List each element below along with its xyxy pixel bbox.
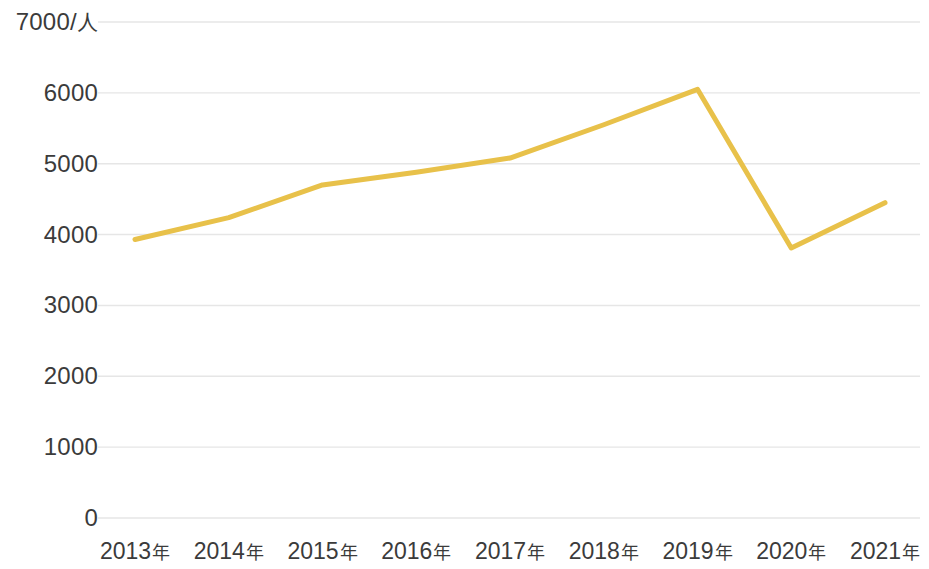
- y-axis-tick-label: 1000: [0, 435, 98, 459]
- y-axis-tick-value: 3000: [44, 291, 98, 318]
- x-axis-tick-suffix: 年: [902, 543, 920, 563]
- x-axis-tick-year: 2021: [850, 538, 901, 564]
- x-axis-tick-label: 2020年: [756, 540, 826, 563]
- x-axis-tick-suffix: 年: [433, 543, 451, 563]
- y-axis-tick-value: 0: [84, 504, 98, 531]
- x-axis-tick-label: 2019年: [662, 540, 732, 563]
- x-axis-tick-label: 2016年: [381, 540, 451, 563]
- y-axis-tick-value: 4000: [44, 221, 98, 248]
- x-axis-tick-suffix: 年: [340, 543, 358, 563]
- y-axis-tick-value: 7000/: [16, 8, 77, 35]
- x-axis-tick-year: 2015: [287, 538, 338, 564]
- x-axis-tick-year: 2019: [662, 538, 713, 564]
- x-axis-tick-suffix: 年: [808, 543, 826, 563]
- y-axis-tick-label: 2000: [0, 364, 98, 388]
- x-axis-tick-suffix: 年: [152, 543, 170, 563]
- y-axis-tick-value: 1000: [44, 433, 98, 460]
- x-axis-tick-label: 2017年: [475, 540, 545, 563]
- x-axis-tick-label: 2021年: [850, 540, 920, 563]
- x-axis-tick-suffix: 年: [621, 543, 639, 563]
- x-axis-tick-suffix: 年: [527, 543, 545, 563]
- x-axis-tick-label: 2015年: [287, 540, 357, 563]
- plot-area: [0, 0, 929, 569]
- y-axis-tick-label: 5000: [0, 152, 98, 176]
- x-axis-tick-year: 2013: [100, 538, 151, 564]
- y-axis-tick-value: 6000: [44, 79, 98, 106]
- y-axis-tick-label: 7000/人: [0, 10, 98, 34]
- x-axis-tick-suffix: 年: [715, 543, 733, 563]
- x-axis-tick-year: 2014: [194, 538, 245, 564]
- series-line: [135, 89, 885, 248]
- y-axis-tick-value: 5000: [44, 150, 98, 177]
- y-axis-tick-label: 0: [0, 506, 98, 530]
- x-axis-tick-label: 2014年: [194, 540, 264, 563]
- x-axis-tick-suffix: 年: [246, 543, 264, 563]
- x-axis-tick-year: 2020: [756, 538, 807, 564]
- series-group: [135, 89, 885, 248]
- x-axis-tick-year: 2018: [569, 538, 620, 564]
- x-axis-tick-year: 2016: [381, 538, 432, 564]
- x-axis-tick-label: 2013年: [100, 540, 170, 563]
- y-axis-tick-label: 6000: [0, 81, 98, 105]
- gridlines: [98, 22, 920, 518]
- y-axis-tick-label: 3000: [0, 293, 98, 317]
- x-axis-tick-label: 2018年: [569, 540, 639, 563]
- y-axis-tick-label: 4000: [0, 223, 98, 247]
- x-axis-tick-year: 2017: [475, 538, 526, 564]
- y-axis-tick-value: 2000: [44, 362, 98, 389]
- line-chart: 7000/人6000500040003000200010000 2013年201…: [0, 0, 929, 569]
- y-axis-unit-label: 人: [77, 11, 98, 34]
